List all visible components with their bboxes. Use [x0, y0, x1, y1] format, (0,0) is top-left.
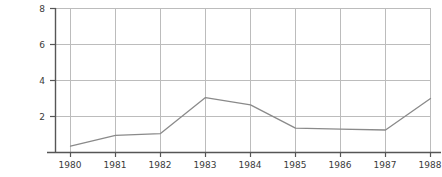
x-axis-tick-labels: 198019811982198319841985198619871988	[59, 160, 442, 170]
y-tick-label: 2	[39, 112, 45, 122]
x-tick-label: 1987	[374, 160, 397, 170]
x-tick-label: 1983	[194, 160, 217, 170]
x-tick-label: 1981	[104, 160, 127, 170]
chart-canvas: 198019811982198319841985198619871988 246…	[0, 0, 442, 177]
x-tick-label: 1980	[59, 160, 82, 170]
x-tick-label: 1986	[329, 160, 352, 170]
x-tick-label: 1984	[239, 160, 262, 170]
y-tick-label: 8	[39, 4, 45, 14]
x-tick-label: 1982	[149, 160, 172, 170]
x-tick-label: 1985	[284, 160, 307, 170]
line-chart: 198019811982198319841985198619871988 246…	[0, 0, 442, 177]
y-tick-label: 4	[39, 76, 45, 86]
x-tick-label: 1988	[419, 160, 442, 170]
y-tick-label: 6	[39, 40, 45, 50]
y-axis-tick-labels: 2468	[39, 4, 45, 122]
